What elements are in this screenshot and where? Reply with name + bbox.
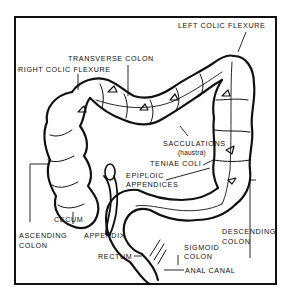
label-rectum: RECTUM — [98, 253, 132, 262]
label-ascending-line1: ASCENDING — [19, 232, 67, 241]
label-descending-line2: COLON — [222, 238, 251, 247]
label-cecum: CECUM — [54, 216, 83, 225]
leader-sacculations — [180, 126, 188, 136]
leader-epiploic — [166, 168, 210, 180]
leader-ascending — [30, 164, 48, 222]
label-anal-canal: ANAL CANAL — [185, 267, 235, 276]
leader-descending — [250, 180, 256, 258]
label-sigmoid-line2: COLON — [184, 253, 213, 262]
label-sacculations: SACCULATIONS — [163, 140, 226, 149]
label-epiploic-line2: APPENDICES — [126, 181, 178, 190]
label-right-colic-flexure: RIGHT COLIC FLEXURE — [18, 66, 111, 75]
label-left-colic-flexure: LEFT COLIC FLEXURE — [178, 22, 265, 31]
leader-teniae — [203, 160, 213, 165]
label-ascending-line2: COLON — [19, 242, 48, 251]
colon-illustration — [0, 0, 299, 300]
label-appendix: APPENDIX — [84, 232, 125, 241]
descending-colon-shape — [234, 56, 254, 204]
label-teniae-coli: TENIAE COLI — [150, 160, 201, 169]
label-haustra: (haustra) — [178, 149, 206, 158]
label-transverse-colon: TRANSVERSE COLON — [68, 55, 154, 64]
leader-left-flexure — [238, 32, 246, 52]
label-descending-line1: DESCENDING — [222, 228, 276, 237]
